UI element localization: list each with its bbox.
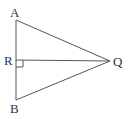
triangle-diagram: A R Q B	[0, 0, 129, 119]
segments	[16, 20, 110, 100]
label-r: R	[4, 53, 13, 68]
segment-aq	[16, 20, 110, 61]
segment-bq	[16, 61, 110, 100]
label-q: Q	[113, 54, 123, 69]
label-b: B	[10, 101, 19, 116]
right-angle-marker	[16, 60, 23, 67]
label-a: A	[10, 5, 20, 20]
segment-rq	[16, 60, 110, 61]
